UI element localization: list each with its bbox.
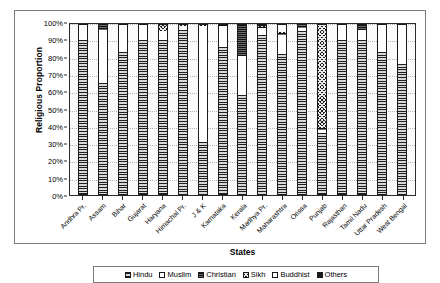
bar-slot [153,24,173,195]
x-label-slot: West Bengal [393,200,413,246]
bar-segment-hindu [199,142,207,194]
bar-slot [392,24,412,195]
stacked-bar[interactable] [138,24,148,195]
stacked-bar[interactable] [337,24,347,195]
bar-slot [193,24,213,195]
y-tick-mark [64,144,67,145]
legend-swatch-buddhist-icon [272,272,278,278]
legend-swatch-muslim-icon [159,272,165,278]
y-tick-label: 70% [48,70,63,79]
stacked-bar[interactable] [277,24,287,195]
stacked-bar[interactable] [377,24,387,195]
stacked-bar[interactable] [357,24,367,195]
bar-segment-hindu [99,83,107,194]
bar-slot [332,24,352,195]
bar-segment-hindu [139,40,147,194]
bar-segment-hindu [179,30,187,194]
x-category-label: Andhra Pr. [59,202,87,230]
x-label-slot: Andhra Pr. [72,200,92,246]
stacked-bar[interactable] [98,24,108,195]
stacked-bar[interactable] [198,24,208,195]
x-label-slot: Assam [92,200,112,246]
bar-segment-hindu [278,54,286,194]
bar-segment-hindu [219,47,227,194]
y-tick-mark [64,57,67,58]
y-tick-mark [64,74,67,75]
stacked-bar[interactable] [158,24,168,195]
y-tick-label: 40% [48,122,63,131]
bar-segment-muslim [278,35,286,54]
x-category-label: J & K [191,202,208,219]
bar-segment-buddhist [278,24,286,32]
y-tick-mark [64,126,67,127]
bar-segment-muslim [199,26,207,142]
legend-swatch-sikh-icon [243,272,249,278]
bar-segment-christian [238,24,246,56]
legend-item[interactable]: Christian [198,270,236,279]
stacked-bar[interactable] [118,24,128,195]
bar-slot [272,24,292,195]
legend-label: Christian [206,270,236,279]
x-label-slot: Bihar [112,200,132,246]
stacked-bar[interactable] [297,24,307,195]
bar-segment-hindu [258,35,266,194]
legend-item[interactable]: Hindu [125,270,153,279]
bar-segment-muslim [219,26,227,47]
bar-slot [93,24,113,195]
bar-segment-muslim [398,24,406,64]
legend-item[interactable]: Buddhist [272,270,309,279]
bar-slot [133,24,153,195]
bar-segment-muslim [338,24,346,40]
bar-slot [233,24,253,195]
bar-segment-hindu [398,64,406,194]
bar-segment-muslim [378,24,386,52]
bar-segment-hindu [119,52,127,194]
chart-frame: Religious Proportion 0%10%20%30%40%50%60… [14,10,426,244]
legend-swatch-others-icon [317,272,323,278]
legend-label: Others [325,270,348,279]
bar-slot [312,24,332,195]
bar-segment-sikh [318,24,326,128]
x-label-slot: Orissa [293,200,313,246]
stacked-bar[interactable] [218,24,228,195]
y-tick-mark [64,196,67,197]
legend-label: Hindu [133,270,153,279]
y-tick-mark [64,161,67,162]
legend-item[interactable]: Muslim [159,270,191,279]
y-tick-label: 100% [44,19,63,28]
stacked-bar[interactable] [257,24,267,195]
y-tick-label: 0% [52,192,63,201]
bar-slot [173,24,193,195]
legend-item[interactable]: Others [317,270,348,279]
legend-swatch-christian-icon [198,272,204,278]
bar-segment-hindu [79,40,87,194]
bar-slot [113,24,133,195]
x-label-slot: Karnataka [212,200,232,246]
y-tick-mark [64,40,67,41]
bar-segment-muslim [79,24,87,40]
y-tick-label: 80% [48,53,63,62]
bar-segment-muslim [99,30,107,84]
bar-slot [372,24,392,195]
y-tick-mark [64,109,67,110]
y-tick-label: 50% [48,105,63,114]
bar-slot [73,24,93,195]
x-axis-title: States [69,247,416,257]
stacked-bar[interactable] [317,24,327,195]
stacked-bar[interactable] [178,24,188,195]
legend-swatch-hindu-icon [125,272,131,278]
bar-group [70,24,415,195]
bar-segment-hindu [298,31,306,194]
bar-segment-hindu [378,52,386,194]
stacked-bar[interactable] [78,24,88,195]
x-label-slot: Himachal Pr. [172,200,192,246]
legend-label: Buddhist [280,270,309,279]
legend-label: Sikh [251,270,266,279]
legend-item[interactable]: Sikh [243,270,266,279]
bar-segment-muslim [159,31,167,40]
plot-area [69,23,416,196]
stacked-bar[interactable] [397,24,407,195]
stacked-bar[interactable] [237,24,247,195]
bar-segment-sikh [159,24,167,31]
bar-segment-hindu [159,40,167,194]
